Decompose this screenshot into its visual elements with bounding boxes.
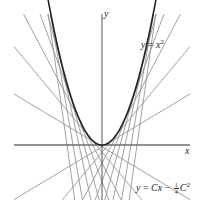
eq2-C: C xyxy=(151,182,158,193)
x-axis-label: x xyxy=(185,145,189,156)
tangent-line xyxy=(48,14,100,200)
eq2-eq: = xyxy=(140,182,151,193)
tangent-family-equation-label: y = Cx − 14C2 xyxy=(136,181,190,195)
eq2-fraction: 14 xyxy=(174,182,179,195)
diagram-canvas xyxy=(0,0,201,200)
tangent-line xyxy=(83,14,181,200)
eq2-exp: 2 xyxy=(187,181,191,189)
eq2-frac-num: 1 xyxy=(174,182,179,189)
eq2-frac-den: 4 xyxy=(174,189,179,195)
eq2-minus: − xyxy=(162,182,173,193)
eq2-C2: C xyxy=(180,182,187,193)
eq-eq: = xyxy=(145,39,156,50)
eq-exp: 2 xyxy=(161,38,165,46)
parabola-equation-label: y = x2 xyxy=(141,38,164,50)
tangent-line xyxy=(24,14,122,200)
y-axis-label: y xyxy=(104,8,108,19)
